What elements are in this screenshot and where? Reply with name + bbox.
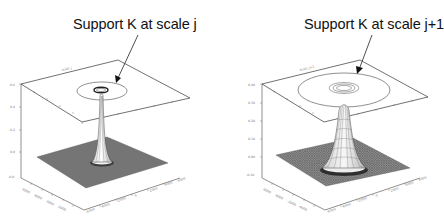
svg-text:scale j+1: scale j+1 (299, 65, 314, 72)
z-tick: 0.30 (248, 101, 255, 105)
y-tick: 4000 (34, 193, 43, 200)
y-tick: 2000 (46, 199, 55, 206)
y-tick: -2000 (287, 199, 297, 207)
z-tick: 0.00 (248, 155, 255, 159)
svg-text:scale j: scale j (61, 66, 72, 72)
arrow-head-icon (356, 66, 363, 74)
z-tick: -0.10 (246, 173, 254, 177)
y-tick: 4000 (275, 193, 284, 200)
x-tick: 6000 (177, 177, 186, 183)
arrow-line (360, 35, 372, 67)
z-tick: 0.2 (10, 128, 15, 132)
y-tick: -2000 (57, 204, 67, 212)
x-tick: -6000 (326, 207, 336, 214)
x-tick: -4000 (341, 202, 351, 209)
z-tick: 0.4 (10, 105, 15, 109)
x-tick: 0 (375, 194, 378, 198)
x-tick: -5000 (85, 207, 95, 214)
x-tick: -2000 (357, 196, 367, 203)
caption-scale-j-plus-1: Support K at scale j+1 (304, 16, 444, 32)
z-tick: 0.40 (248, 83, 255, 87)
panel-scale-j: scale j 0.6 0.4 0.2 0.0 -0.0 (8, 35, 190, 214)
z-tick: -0.0 (8, 175, 14, 179)
z-tick: 0.0 (10, 150, 15, 154)
arrow-head-icon (115, 75, 121, 83)
x-tick: 0 (134, 194, 137, 198)
x-tick: -2000 (116, 196, 126, 203)
contour-plane (21, 60, 190, 122)
y-tick: -4000 (298, 204, 308, 212)
x-tick: -4000 (100, 202, 110, 209)
x-tick: 4000 (164, 181, 173, 187)
y-tick: 6000 (263, 187, 272, 194)
panel-scale-j-plus-1: scale j+1 0.40 0.30 (246, 35, 428, 214)
x-tick: 6000 (418, 176, 427, 182)
support-contour (298, 73, 390, 107)
caption-scale-j: Support K at scale j (73, 16, 197, 32)
z-tick: 0.6 (10, 83, 15, 87)
z-tick: 0.10 (248, 137, 255, 141)
x-tick: 4000 (405, 181, 414, 187)
z-tick: 0.20 (248, 119, 255, 123)
arrow-line (118, 35, 138, 78)
y-tick: 6000 (22, 187, 31, 194)
